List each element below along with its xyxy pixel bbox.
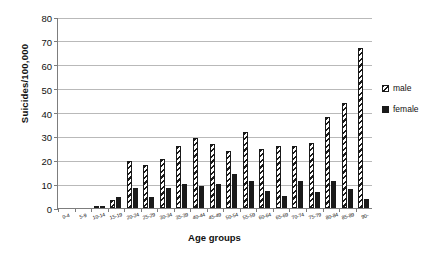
bar-group — [108, 18, 125, 208]
y-axis-tick-label: 80 — [41, 13, 52, 24]
x-axis-tick-label: 0-4 — [62, 212, 70, 220]
y-axis-tick-label: 60 — [41, 60, 52, 71]
x-axis-tick-label-cell: 70-74 — [289, 211, 306, 233]
bar-female — [133, 188, 138, 208]
legend-label-female: female — [393, 104, 419, 114]
x-axis-title: Age groups — [57, 232, 372, 243]
x-axis-tick-label-cell: 60-64 — [256, 211, 273, 233]
bar-group — [157, 18, 174, 208]
suicide-rate-bar-chart: Suicides/100,000 01020304050607080 0-45-… — [0, 0, 443, 257]
bar-female — [100, 206, 105, 208]
legend-swatch-male-icon — [382, 85, 389, 92]
bar-male — [309, 143, 314, 208]
bar-male — [160, 159, 165, 208]
x-axis-tick-labels: 0-45-910-1415-1920-2425-2930-3435-3940-4… — [57, 211, 372, 233]
bar-male — [325, 117, 330, 208]
bar-female — [265, 191, 270, 208]
bar-group — [289, 18, 306, 208]
bar-group — [124, 18, 141, 208]
bar-female — [249, 181, 254, 208]
x-axis-tick-label-cell: 5-9 — [74, 211, 91, 233]
bar-male — [358, 48, 363, 208]
bar-female — [232, 174, 237, 208]
x-axis-tick-label-cell: 65-69 — [273, 211, 290, 233]
x-axis-tick-label-cell: 40-44 — [190, 211, 207, 233]
x-axis-tick-label: 60-64 — [258, 211, 272, 220]
bar-group — [323, 18, 340, 208]
bar-male — [259, 149, 264, 208]
bar-female — [216, 184, 221, 208]
x-axis-tick-label: 35-39 — [175, 211, 189, 220]
bar-group — [273, 18, 290, 208]
bar-group — [91, 18, 108, 208]
bar-male — [243, 132, 248, 208]
x-axis-tick-label: 15-19 — [109, 211, 123, 220]
x-axis-tick-label: 5-9 — [78, 212, 86, 220]
bar-group — [240, 18, 257, 208]
x-axis-tick-label: 25-29 — [142, 211, 156, 220]
y-axis-tick-label: 70 — [41, 36, 52, 47]
y-axis-tick-label: 30 — [41, 132, 52, 143]
bar-group — [306, 18, 323, 208]
y-axis-tick-label: 20 — [41, 156, 52, 167]
bar-group — [174, 18, 191, 208]
x-axis-tick-label: 75-79 — [308, 211, 322, 220]
legend-label-male: male — [393, 83, 411, 93]
bar-male — [226, 151, 231, 208]
x-axis-tick-label: 85-89 — [341, 211, 355, 220]
bar-female — [364, 199, 369, 208]
bar-group — [190, 18, 207, 208]
x-axis-tick-label: 80-84 — [325, 211, 339, 220]
legend-item-female: female — [382, 104, 419, 114]
x-axis-tick-label-cell: 35-39 — [173, 211, 190, 233]
legend: male female — [382, 83, 419, 125]
x-axis-tick-label: 30-34 — [159, 211, 173, 220]
y-axis-title: Suicides/100,000 — [19, 24, 30, 144]
legend-item-male: male — [382, 83, 419, 93]
x-axis-tick-label-cell: 30-34 — [156, 211, 173, 233]
bar-female — [116, 197, 121, 208]
bar-group — [356, 18, 373, 208]
x-axis-tick-label: 50-54 — [225, 211, 239, 220]
x-axis-tick-label: 65-69 — [275, 211, 289, 220]
x-axis-tick-label-cell: 55-59 — [239, 211, 256, 233]
bar-male — [127, 161, 132, 208]
bar-male — [110, 200, 115, 208]
x-axis-tick-label: 70-74 — [291, 211, 305, 220]
x-axis-tick-label-cell: 25-29 — [140, 211, 157, 233]
x-axis-tick-label-cell: 15-19 — [107, 211, 124, 233]
y-axis-tick-label: 40 — [41, 108, 52, 119]
bar-series-container — [58, 18, 372, 208]
bar-male — [342, 103, 347, 208]
x-axis-tick-label: 45-49 — [208, 211, 222, 220]
legend-swatch-female-icon — [382, 106, 389, 113]
x-axis-tick-label-cell: 45-49 — [206, 211, 223, 233]
x-axis-tick-label: 10-14 — [92, 211, 106, 220]
x-axis-tick-label: 20-24 — [126, 211, 140, 220]
y-axis-tick-label: 50 — [41, 84, 52, 95]
bar-group — [223, 18, 240, 208]
bar-group — [207, 18, 224, 208]
bar-male — [292, 146, 297, 208]
bar-group — [141, 18, 158, 208]
bar-female — [149, 197, 154, 208]
bar-group — [256, 18, 273, 208]
bar-female — [166, 188, 171, 208]
x-axis-tick-label-cell: 10-14 — [90, 211, 107, 233]
x-axis-tick-label-cell: 80-84 — [322, 211, 339, 233]
bar-male — [276, 146, 281, 208]
x-axis-tick-label: 90- — [360, 212, 368, 220]
bar-female — [199, 186, 204, 208]
bar-female — [331, 181, 336, 208]
bar-male — [143, 165, 148, 208]
x-axis-tick-label-cell: 0-4 — [57, 211, 74, 233]
bar-male — [210, 144, 215, 208]
bar-group — [58, 18, 75, 208]
bar-female — [182, 184, 187, 208]
bar-group — [339, 18, 356, 208]
bar-female — [282, 196, 287, 208]
x-axis-tick-label-cell: 85-89 — [339, 211, 356, 233]
bar-male — [176, 146, 181, 208]
bar-female — [348, 189, 353, 208]
plot-area: 01020304050607080 — [57, 18, 372, 209]
